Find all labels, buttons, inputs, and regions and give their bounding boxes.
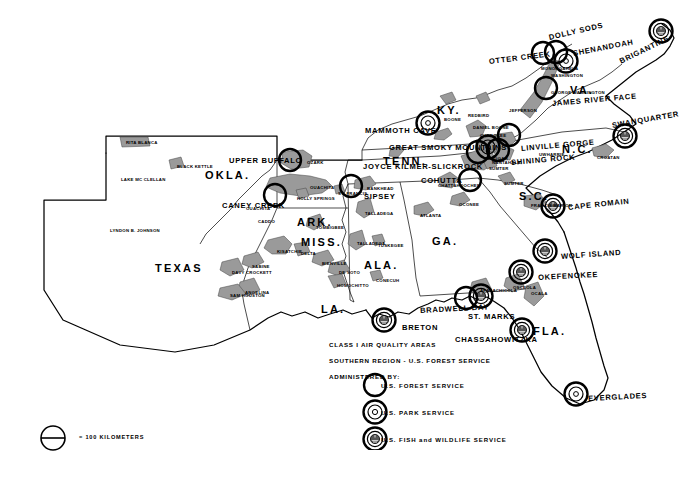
- class-i-area-label: MAMMOTH CAVE: [365, 126, 437, 135]
- national-forest-label: DELTA: [301, 251, 316, 256]
- national-forest-label: FRANCIS MARION: [531, 203, 572, 208]
- legend-line-2: SOUTHERN REGION - U.S. FOREST SERVICE: [329, 357, 491, 364]
- national-forest-label: TOMBIGBEE: [316, 225, 344, 230]
- national-forest-label: MONONGAHELA: [541, 66, 578, 71]
- class-i-area-label: ST. MARKS: [468, 312, 515, 321]
- state-label: TEXAS: [155, 262, 203, 274]
- national-forest-label: UWHARRIE: [539, 152, 565, 157]
- national-forest-label: WASHINGTON: [551, 73, 583, 78]
- class-i-symbol-layer: [0, 0, 687, 482]
- legend-line-3: ADMINISTERED BY:: [329, 373, 491, 380]
- class-i-area-label: SIPSEY: [364, 192, 396, 201]
- national-forest-label: SABINE: [252, 264, 270, 269]
- state-label: KY.: [437, 104, 461, 116]
- scale-bar-symbol: [30, 420, 76, 456]
- legend-label-fws: U.S. FISH and WILDLIFE SERVICE: [381, 436, 507, 443]
- scale-bar-label: = 100 KILOMETERS: [79, 434, 144, 440]
- state-label: OKLA.: [205, 169, 250, 181]
- national-forest-label: CONECUH: [376, 278, 399, 283]
- national-forest-label: BANKHEAD: [367, 186, 394, 191]
- national-forest-label: GEORGE WASHINGTON: [551, 90, 605, 95]
- legend: CLASS I AIR QUALITY AREAS SOUTHERN REGIO…: [329, 341, 491, 362]
- national-forest-label: CROATAN: [597, 155, 620, 160]
- class-i-area-symbol[interactable]: [510, 261, 533, 284]
- state-label: S.C.: [519, 190, 549, 202]
- national-forest-label: SAM HOUSTON: [230, 293, 265, 298]
- class-i-area-symbol[interactable]: [565, 383, 588, 406]
- national-forest-label: DANIEL BOONE: [473, 125, 509, 130]
- national-forest-label: HOLLY SPRINGS: [297, 196, 335, 201]
- national-forest-label: JEFFERSON: [509, 108, 537, 113]
- national-forest-label: RITA BLANCA: [126, 140, 158, 145]
- class-i-area-label: GREAT SMOKY MOUNTAINS: [389, 143, 507, 152]
- class-i-area-symbol[interactable]: [535, 77, 557, 99]
- state-label: ALA.: [364, 259, 398, 271]
- national-forest-label: BLACK KETTLE: [177, 164, 213, 169]
- map-canvas: TEXASOKLA.ARK.MISS.LA.ALA.GA.FLA.TENN.KY…: [0, 0, 687, 482]
- national-forest-label: SUMTER: [489, 166, 509, 171]
- national-forest-label: OCONEE: [459, 202, 479, 207]
- national-forest-label: LYNDON B. JOHNSON: [110, 228, 160, 233]
- class-i-area-label: JOYCE KILMER-SLICKROCK: [363, 162, 483, 171]
- national-forest-label: ATLANTA: [420, 213, 441, 218]
- state-label: MISS.: [301, 236, 342, 248]
- national-forest-label: APALACHICOLA: [480, 288, 517, 293]
- national-forest-label: LAKE MC CLELLAN: [121, 177, 166, 182]
- state-label: FLA.: [533, 325, 566, 337]
- national-forest-label: REDBIRD: [468, 113, 489, 118]
- national-forest-label: TALLADEGA: [365, 211, 393, 216]
- legend-label-park-service: U.S. PARK SERVICE: [381, 409, 455, 416]
- national-forest-label: TUSKEGEE: [378, 243, 404, 248]
- national-forest-label: PISGAH: [490, 156, 508, 161]
- national-forest-label: DE SOTO: [339, 270, 360, 275]
- class-i-area-label: UPPER BUFFALO: [229, 156, 302, 165]
- national-forest-label: CHEROKEE: [480, 133, 506, 138]
- national-forest-label: BOONE: [444, 117, 461, 122]
- national-forest-label: OUACHITA: [246, 206, 270, 211]
- legend-line-1: CLASS I AIR QUALITY AREAS: [329, 341, 491, 348]
- national-forest-label: BIENVILLE: [322, 261, 347, 266]
- national-forest-label: OZARK: [307, 160, 324, 165]
- national-forest-label: CHATTAHOOCHEE: [438, 183, 480, 188]
- legend-label-forest-service: U.S. FOREST SERVICE: [381, 382, 465, 389]
- national-forest-label: ST. FRANCIS: [338, 191, 367, 196]
- national-forest-label: DAVY CROCKETT: [232, 270, 272, 275]
- state-label: GA.: [432, 235, 458, 247]
- national-forest-label: SUMTER: [504, 181, 524, 186]
- national-forest-label: KISATCHIE: [277, 249, 302, 254]
- class-i-area-symbol[interactable]: [534, 240, 557, 263]
- class-i-area-label: BRETON: [402, 323, 438, 332]
- class-i-area-symbol[interactable]: [373, 309, 396, 332]
- national-forest-label: OUACHITA: [310, 185, 334, 190]
- national-forest-label: CADDO: [258, 219, 275, 224]
- national-forest-label: HOMOCHITTO: [337, 283, 369, 288]
- national-forest-label: OCALA: [531, 291, 548, 296]
- state-label: LA.: [321, 303, 345, 315]
